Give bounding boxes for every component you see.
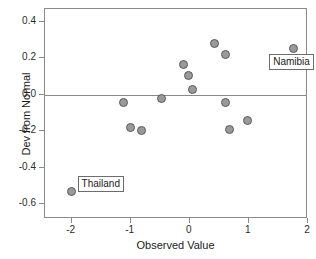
x-axis-label: Observed Value: [44, 239, 307, 251]
x-tick: [130, 218, 131, 223]
data-point: [243, 116, 252, 125]
y-tick: [39, 130, 44, 131]
data-point: [119, 98, 128, 107]
data-point: [221, 98, 230, 107]
data-point: [225, 125, 234, 134]
data-point: [179, 60, 188, 69]
data-point: [126, 123, 135, 132]
data-point: [67, 187, 76, 196]
data-point: [210, 39, 219, 48]
y-tick: [39, 21, 44, 22]
data-point: [157, 94, 166, 103]
data-point: [184, 71, 193, 80]
point-label-namibia: Namibia: [269, 54, 314, 70]
scatter-plot-figure: ThailandNamibia -2-1012 0.40.20.0-0.2-0.…: [0, 0, 316, 259]
plot-area: ThailandNamibia: [44, 8, 307, 218]
zero-reference-line: [45, 95, 306, 96]
point-label-thailand: Thailand: [78, 176, 124, 192]
y-axis-label: Dev from Normal: [20, 39, 32, 189]
x-tick-label: -1: [118, 224, 142, 236]
y-tick: [39, 167, 44, 168]
x-tick: [248, 218, 249, 223]
y-tick-label: -0.6: [0, 198, 36, 208]
y-tick-label: 0.4: [0, 16, 36, 26]
x-tick: [71, 218, 72, 223]
data-point: [221, 50, 230, 59]
data-point: [289, 44, 298, 53]
x-tick: [189, 218, 190, 223]
x-tick: [307, 218, 308, 223]
data-point: [188, 85, 197, 94]
y-tick: [39, 203, 44, 204]
x-tick-label: 2: [295, 224, 316, 236]
x-tick-label: 0: [177, 224, 201, 236]
x-tick-label: -2: [59, 224, 83, 236]
data-point: [137, 126, 146, 135]
y-tick: [39, 57, 44, 58]
x-tick-label: 1: [236, 224, 260, 236]
y-tick: [39, 94, 44, 95]
